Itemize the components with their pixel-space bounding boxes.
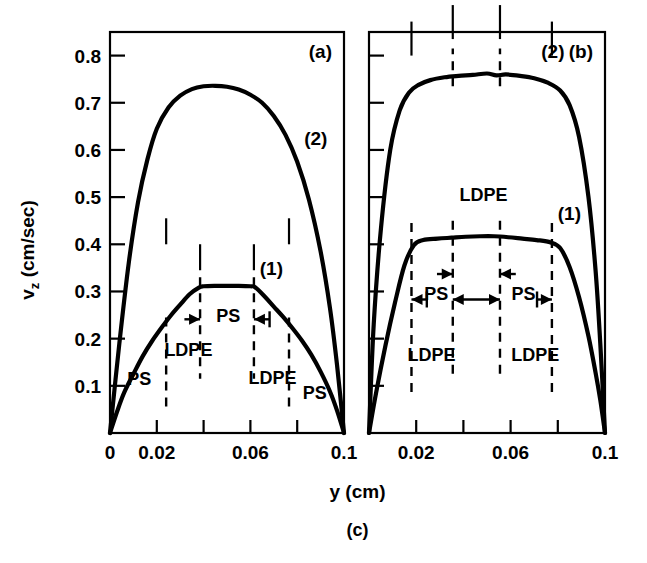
- curve-label-2: (2): [541, 41, 564, 62]
- region-label-ps: PS: [127, 369, 151, 389]
- annotation-arrow: [254, 314, 270, 325]
- axis-titles: y (cm)(c)vz (cm/sec): [17, 200, 385, 540]
- arrow-head: [453, 294, 464, 305]
- region-label-ps: PS: [216, 306, 240, 326]
- curve-label-2: (2): [304, 128, 327, 149]
- y-tick-label: 0.8: [75, 46, 101, 67]
- y-axis-title: vz (cm/sec): [17, 200, 42, 299]
- curve-label-1: (1): [260, 258, 283, 279]
- panel-a: 0.10.20.30.40.50.60.70.800.020.060.1PSLD…: [75, 32, 358, 463]
- x-tick-label: 0.06: [232, 442, 269, 463]
- x-tick-label: 0.02: [138, 442, 175, 463]
- region-label-ps: PS: [303, 383, 327, 403]
- annotation-arrow: [453, 294, 500, 305]
- arrow-head: [489, 294, 500, 305]
- x-tick-label: 0.1: [592, 442, 619, 463]
- annotation-arrow: [184, 314, 200, 325]
- panel-tag: (b): [569, 41, 593, 62]
- figure-caption: (c): [347, 520, 369, 540]
- panel-frame: [369, 32, 605, 433]
- curve-label-1: (1): [558, 203, 581, 224]
- y-axis-title-text: vz (cm/sec): [17, 200, 42, 299]
- y-axis-symbol: v: [17, 289, 38, 300]
- region-label-ldpe: LDPE: [249, 368, 297, 388]
- annotation-arrow: [500, 269, 516, 280]
- arrow-head: [411, 294, 422, 305]
- arrow-head: [500, 269, 511, 280]
- y-axis-unit: (cm/sec): [17, 200, 38, 282]
- figure-container: 0.10.20.30.40.50.60.70.800.020.060.1PSLD…: [0, 0, 647, 563]
- y-tick-label: 0.1: [75, 376, 102, 397]
- region-label-ps: PS: [512, 284, 536, 304]
- y-tick-label: 0.5: [75, 187, 102, 208]
- x-tick-label: 0.02: [398, 442, 435, 463]
- x-tick-label: 0.06: [492, 442, 529, 463]
- curve-2: [369, 74, 605, 433]
- arrow-head: [541, 294, 552, 305]
- curve-1: [369, 236, 605, 433]
- y-tick-label: 0.6: [75, 140, 101, 161]
- arrow-head: [189, 314, 200, 325]
- arrow-head: [254, 314, 265, 325]
- y-tick-label: 0.3: [75, 281, 101, 302]
- annotation-arrow: [437, 269, 453, 280]
- y-tick-label: 0.7: [75, 93, 101, 114]
- region-label-ldpe: LDPE: [408, 345, 456, 365]
- panel-b: 0.020.060.1LDPEPSPSLDPELDPE(b)(2)(1): [369, 5, 619, 463]
- x-axis-title: y (cm): [330, 481, 386, 502]
- region-label-ldpe: LDPE: [164, 340, 212, 360]
- x-tick-label: 0.1: [331, 442, 358, 463]
- arrow-head: [442, 269, 453, 280]
- annotation-arrow: [537, 294, 552, 305]
- region-label-ldpe: LDPE: [459, 185, 507, 205]
- panel-tag: (a): [309, 41, 332, 62]
- y-tick-label: 0.2: [75, 329, 101, 350]
- region-label-ldpe: LDPE: [511, 345, 559, 365]
- chart-svg: 0.10.20.30.40.50.60.70.800.020.060.1PSLD…: [0, 0, 647, 563]
- y-tick-label: 0.4: [75, 234, 102, 255]
- x-tick-label: 0: [105, 442, 116, 463]
